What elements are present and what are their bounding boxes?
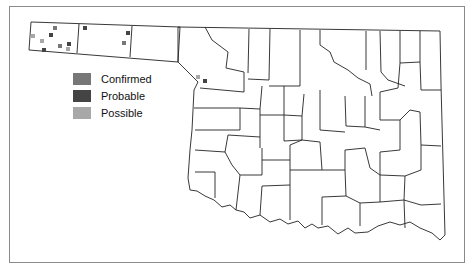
case-marker-probable — [126, 31, 130, 35]
panhandle-outline — [29, 22, 180, 62]
case-marker-possible — [31, 34, 35, 38]
case-marker-confirmed — [53, 26, 57, 30]
case-marker-possible — [196, 75, 200, 79]
case-marker-confirmed — [58, 44, 62, 48]
oklahoma-county-map — [0, 0, 475, 273]
legend: Confirmed Probable Possible — [73, 70, 152, 121]
possible-swatch — [73, 107, 91, 119]
legend-label: Possible — [101, 107, 143, 119]
case-marker-confirmed — [122, 41, 126, 45]
case-marker-probable — [67, 42, 71, 46]
case-marker-probable — [49, 33, 53, 37]
confirmed-swatch — [73, 73, 91, 85]
case-marker-possible — [66, 47, 70, 51]
case-marker-probable — [83, 26, 87, 30]
case-marker-probable — [203, 79, 207, 83]
case-marker-possible — [40, 39, 44, 43]
legend-item-possible: Possible — [73, 104, 152, 121]
case-marker-probable — [42, 48, 46, 52]
legend-item-probable: Probable — [73, 87, 152, 104]
legend-item-confirmed: Confirmed — [73, 70, 152, 87]
legend-label: Confirmed — [101, 73, 152, 85]
legend-label: Probable — [101, 90, 145, 102]
state-outline — [178, 27, 445, 240]
probable-swatch — [73, 90, 91, 102]
